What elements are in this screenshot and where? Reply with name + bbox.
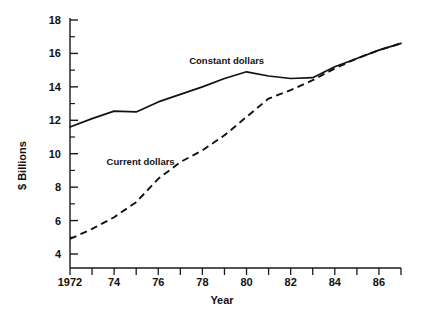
y-axis-tick-label: 8 [55, 181, 61, 193]
series-label-constant-dollars: Constant dollars [189, 55, 264, 66]
y-axis-tick-labels: 4681012141618 [49, 14, 62, 260]
x-axis-title: Year [210, 294, 234, 306]
x-axis-tick-label: 86 [373, 276, 385, 288]
y-axis-tick-label: 10 [49, 148, 61, 160]
x-axis-tick-label: 1972 [58, 276, 82, 288]
x-axis-tick-label: 78 [196, 276, 208, 288]
y-axis-tick-label: 4 [55, 248, 62, 260]
y-axis-tick-label: 16 [49, 47, 61, 59]
line-chart: 4681012141618 197274767880828486 Constan… [0, 0, 434, 323]
y-axis-tick-label: 12 [49, 114, 61, 126]
x-axis-tick-label: 82 [285, 276, 297, 288]
x-axis-tick-label: 74 [108, 276, 121, 288]
x-axis-tick-label: 84 [329, 276, 342, 288]
x-axis-tick-label: 76 [152, 276, 164, 288]
x-axis-tick-labels: 197274767880828486 [58, 276, 385, 288]
y-axis-tick-label: 18 [49, 14, 61, 26]
y-axis-minor-ticks [70, 37, 75, 238]
footer-caption-partial [0, 311, 434, 323]
x-axis-tick-label: 80 [240, 276, 252, 288]
x-axis-ticks [70, 268, 401, 275]
y-axis-tick-label: 14 [49, 81, 62, 93]
series-line-current-dollars [70, 43, 401, 239]
chart-figure: 4681012141618 197274767880828486 Constan… [0, 0, 434, 323]
y-axis-title: $ Billions [16, 141, 28, 190]
y-axis-tick-label: 6 [55, 215, 61, 227]
series-label-current-dollars: Current dollars [107, 156, 175, 167]
